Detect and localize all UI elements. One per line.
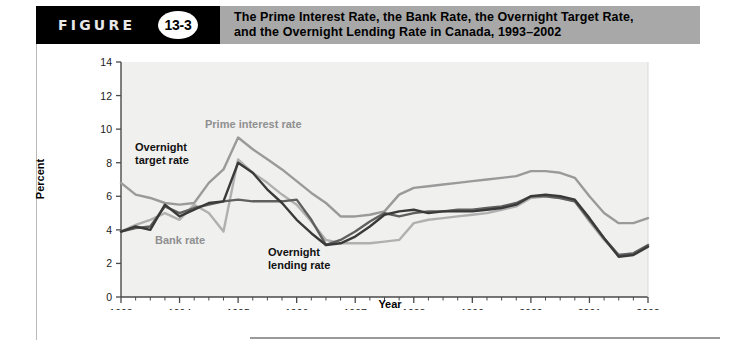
overnight-lending-annotation-line2: lending rate: [268, 259, 330, 271]
x-tick-label-1994: 1994: [168, 307, 192, 310]
x-tick-label-1995: 1995: [226, 307, 250, 310]
figure-title-line-2: and the Overnight Lending Rate in Canada…: [234, 25, 700, 40]
y-tick-label-10: 10: [100, 123, 112, 135]
x-tick-label-1997: 1997: [344, 307, 368, 310]
x-tick-label-2002: 2002: [636, 307, 660, 310]
figure-header-black-block: FIGURE 13-3: [36, 6, 220, 44]
figure-title-band: The Prime Interest Rate, the Bank Rate, …: [220, 6, 700, 44]
figure-word-label: FIGURE: [58, 17, 135, 33]
x-tick-label-1999: 1999: [461, 307, 485, 310]
y-tick-label-0: 0: [106, 291, 112, 303]
y-tick-label-6: 6: [106, 190, 112, 202]
page-bottom-rule: [250, 337, 720, 339]
y-axis-title: Percent: [34, 158, 46, 199]
y-tick-label-2: 2: [106, 257, 112, 269]
y-tick-label-4: 4: [106, 224, 112, 236]
overnight-target-annotation-line2: target rate: [135, 154, 189, 166]
figure-number-badge: 13-3: [158, 11, 198, 39]
x-tick-label-1993: 1993: [109, 307, 133, 310]
bank-rate-annotation: Bank rate: [155, 234, 205, 246]
x-axis-title: Year: [378, 298, 402, 310]
x-tick-label-1996: 1996: [285, 307, 309, 310]
overnight-lending-annotation-line1: Overnight: [268, 246, 320, 258]
plot-area-background: [121, 62, 648, 297]
figure-header: FIGURE 13-3 The Prime Interest Rate, the…: [36, 6, 700, 44]
x-tick-label-2000: 2000: [519, 307, 543, 310]
figure-title-line-1: The Prime Interest Rate, the Bank Rate, …: [234, 10, 700, 25]
chart-container: 02468101214 1993199419951996199719981999…: [0, 48, 730, 310]
interest-rate-line-chart: 02468101214 1993199419951996199719981999…: [0, 48, 730, 310]
overnight-target-annotation-line1: Overnight: [135, 141, 187, 153]
y-tick-label-14: 14: [100, 56, 112, 68]
x-tick-label-2001: 2001: [578, 307, 602, 310]
y-tick-label-12: 12: [100, 90, 112, 102]
x-tick-label-1998: 1998: [402, 307, 426, 310]
y-tick-label-8: 8: [106, 157, 112, 169]
y-axis-tick-labels: 02468101214: [100, 56, 112, 303]
prime-rate-annotation: Prime interest rate: [205, 118, 302, 130]
